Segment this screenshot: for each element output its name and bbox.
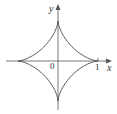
- origin-label: 0: [50, 62, 55, 71]
- astroid-figure: y x 0 1: [0, 0, 117, 114]
- x-axis-label: x: [107, 63, 111, 73]
- x-tick-label-one: 1: [95, 63, 100, 72]
- astroid-plot: [0, 0, 117, 114]
- y-axis-label: y: [49, 4, 53, 14]
- y-axis-arrow-icon: [56, 4, 61, 10]
